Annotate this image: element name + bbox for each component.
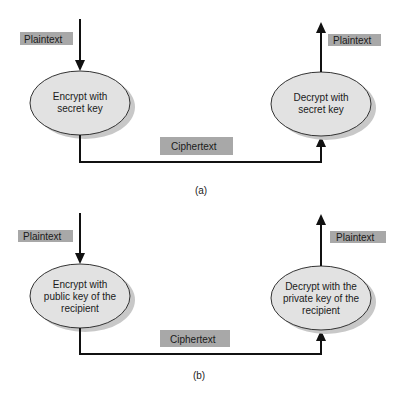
decrypt-node-line-2: private key of the [283,293,360,304]
encrypt-node-line-2: public key of the [44,291,117,302]
ciphertext-label: Ciphertext [160,330,230,347]
arrow-down-icon [75,253,85,264]
panel-b-caption: (b) [193,370,205,381]
encrypt-node: Encrypt with public key of the recipient [30,264,135,332]
encryption-diagram: Plaintext Encrypt with secret key Cipher… [0,0,404,396]
encrypt-node-line-2: secret key [57,103,103,114]
arrow-up-icon [316,214,326,225]
decrypt-node-line-1: Decrypt with [293,92,348,103]
decrypt-node: Decrypt with secret key [271,72,376,140]
input-plaintext-text: Plaintext [24,34,63,45]
input-plaintext-label: Plaintext [18,230,73,242]
encrypt-node-line-1: Encrypt with [53,279,107,290]
encrypt-node-line-1: Encrypt with [53,91,107,102]
input-arrow [75,19,85,71]
input-plaintext-text: Plaintext [23,231,62,242]
output-plaintext-label: Plaintext [328,34,381,46]
ciphertext-label: Ciphertext [160,137,233,155]
panel-a-symmetric: Plaintext Encrypt with secret key Cipher… [20,19,381,196]
panel-a-caption: (a) [195,185,207,196]
encrypt-node: Encrypt with secret key [30,71,135,139]
panel-b-public-key: Plaintext Encrypt with public key of the… [18,213,386,381]
decrypt-node: Decrypt with the private key of the reci… [271,266,376,334]
ciphertext-text: Ciphertext [171,141,217,152]
output-plaintext-label: Plaintext [330,231,386,243]
output-plaintext-text: Plaintext [336,232,375,243]
ciphertext-text: Ciphertext [170,334,216,345]
output-arrow [316,22,326,72]
arrow-down-icon [75,60,85,71]
output-plaintext-text: Plaintext [333,35,372,46]
decrypt-node-line-3: recipient [302,305,340,316]
decrypt-node-line-2: secret key [298,104,344,115]
decrypt-node-line-1: Decrypt with the [285,281,357,292]
output-arrow [316,214,326,266]
input-arrow [75,213,85,264]
encrypt-node-line-3: recipient [61,303,99,314]
input-plaintext-label: Plaintext [20,32,73,45]
arrow-up-icon [316,22,326,33]
